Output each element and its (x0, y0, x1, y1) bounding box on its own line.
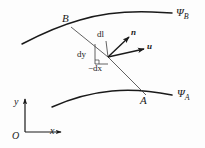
figure-container: B A ΨB ΨA dl dy −dx n u y x O (0, 0, 205, 148)
diagram-canvas (0, 0, 205, 148)
label-axis-y: y (14, 97, 18, 107)
differential-triangle (95, 44, 108, 64)
psi-b-symbol: Ψ (176, 6, 184, 18)
label-axis-origin: O (12, 131, 19, 141)
label-point-a: A (140, 95, 147, 106)
label-axis-x: x (50, 126, 54, 136)
label-streamline-psi-b: ΨB (176, 7, 189, 21)
psi-a-subscript: A (185, 93, 190, 102)
psi-b-subscript: B (184, 12, 189, 21)
psi-a-symbol: Ψ (177, 87, 185, 99)
lower-streamline-curve (52, 90, 172, 107)
label-point-b: B (62, 13, 69, 24)
label-streamline-psi-a: ΨA (177, 88, 190, 102)
dl-leader-line (106, 41, 108, 57)
label-negative-dx: −dx (88, 64, 102, 73)
connector-line-b-to-a (71, 27, 146, 95)
label-dy: dy (77, 50, 86, 59)
upper-streamline-curve (22, 12, 172, 44)
label-vector-n: n (131, 28, 136, 37)
vector-u-arrow (108, 49, 144, 57)
label-dl: dl (97, 30, 104, 39)
label-vector-u: u (147, 42, 152, 51)
